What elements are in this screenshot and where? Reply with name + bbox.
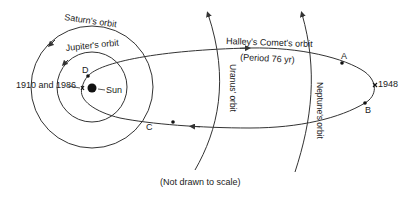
point-c-label: C <box>146 122 153 132</box>
uranus-orbit-label: Uranus' orbit <box>228 64 238 113</box>
point-a-marker-icon <box>340 61 344 65</box>
comet-period-label: (Period 76 yr) <box>240 52 295 65</box>
point-c-marker-icon <box>171 120 175 124</box>
jupiter-orbit-label: Jupiter's orbit <box>65 37 119 53</box>
neptune-orbit-label: Neptune's orbit <box>315 82 325 140</box>
scale-note: (Not drawn to scale) <box>160 177 241 187</box>
sun-label: Sun <box>106 85 122 95</box>
comet-orbit <box>81 48 374 128</box>
saturn-orbit-label: Saturn's orbit <box>64 12 118 29</box>
sun-icon <box>88 84 97 93</box>
point-a-label: A <box>341 51 347 61</box>
aphelion-year-label: 1948 <box>378 79 398 89</box>
point-d-label: D <box>82 65 89 75</box>
point-b-label: B <box>365 105 371 115</box>
comet-orbit-label: Halley's Comet's orbit <box>226 36 313 49</box>
perihelion-years-label: 1910 and 1986 <box>16 80 76 90</box>
uranus-orbit <box>195 14 220 170</box>
halley-comet-orbit-diagram: Sun 1910 and 1986 D A 1948 B C Saturn's … <box>0 0 412 198</box>
